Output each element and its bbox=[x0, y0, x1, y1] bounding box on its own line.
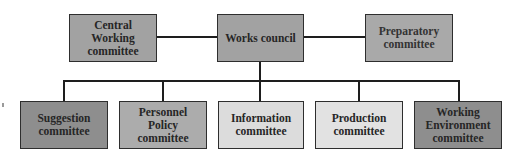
connector-to-information bbox=[259, 80, 261, 101]
production-committee-label: Production committee bbox=[320, 112, 398, 138]
suggestion-committee-label: Suggestion committee bbox=[25, 112, 103, 138]
works-council-box: Works council bbox=[217, 14, 304, 62]
connector-to-production bbox=[358, 80, 360, 101]
working-environment-committee-box: Working Environment committee bbox=[414, 101, 502, 149]
connector-to-suggestion bbox=[63, 80, 65, 101]
org-diagram: Central Working committee Works council … bbox=[0, 0, 521, 159]
working-environment-committee-label: Working Environment committee bbox=[419, 106, 497, 145]
personnel-policy-committee-box: Personnel Policy committee bbox=[119, 101, 207, 149]
connector-central-to-council bbox=[156, 36, 217, 38]
stray-mark bbox=[2, 103, 4, 107]
connector-to-personnel-policy bbox=[162, 80, 164, 101]
preparatory-committee-label: Preparatory committee bbox=[370, 25, 448, 51]
production-committee-box: Production committee bbox=[315, 101, 403, 149]
information-committee-box: Information committee bbox=[218, 101, 304, 149]
central-working-committee-label: Central Working committee bbox=[74, 19, 152, 58]
works-council-label: Works council bbox=[225, 32, 296, 45]
suggestion-committee-box: Suggestion committee bbox=[20, 101, 108, 149]
connector-council-down bbox=[259, 61, 261, 82]
central-working-committee-box: Central Working committee bbox=[69, 14, 157, 62]
personnel-policy-committee-label: Personnel Policy committee bbox=[124, 106, 202, 145]
connector-to-working-environment bbox=[458, 80, 460, 101]
information-committee-label: Information committee bbox=[223, 112, 299, 138]
connector-council-to-preparatory bbox=[303, 36, 365, 38]
connector-bus bbox=[63, 80, 460, 82]
preparatory-committee-box: Preparatory committee bbox=[365, 14, 453, 62]
